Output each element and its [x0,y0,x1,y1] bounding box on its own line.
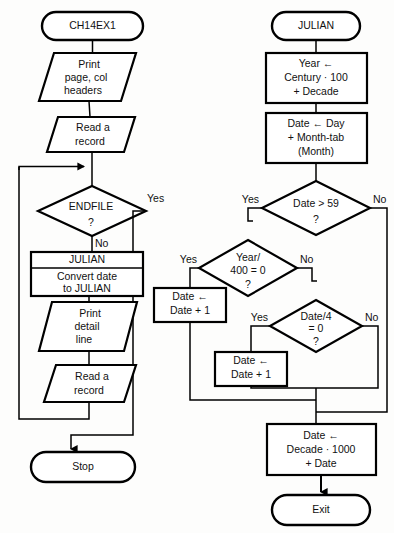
node-print-detail-line: Print detail line [39,302,137,351]
date-calc-label-line1: Date ← Day [287,117,345,129]
date-div-4-no-branch-label: No [365,311,379,323]
date-increment-a-label-line2: Date + 1 [170,304,210,316]
date-gt-59-label-line1: Date > 59 [293,197,339,209]
endfile-yes-branch-label: Yes [147,192,164,204]
print-headers-label-line2: page, col [65,71,108,83]
date-div-4-label-line3: ? [313,335,319,347]
date-calc-label-line2: + Month-tab [288,131,344,143]
node-read-record-1: Read a record [47,117,135,152]
date-div-4-label-line1: Date/4 [301,310,332,322]
node-final-calc: Date ← Decade · 1000 + Date [267,424,376,475]
node-exit: Exit [272,495,370,525]
year-400-label-line1: Year/ [236,251,260,263]
endfile-label-line1: ENDFILE [69,200,113,212]
print-detail-label-line3: line [76,333,93,345]
connector-year-400-no [297,268,317,281]
year-400-label-line2: 400 = 0 [230,264,265,276]
exit-terminator-label: Exit [312,503,330,515]
connector-date-div-4-yes [251,326,270,352]
endfile-label-line2: ? [88,216,94,228]
endfile-no-branch-label: No [95,237,109,249]
date-increment-a-label-line1: Date ← [172,290,208,302]
connector-year-400-yes [190,268,199,288]
year-400-yes-branch-label: Yes [180,253,197,265]
node-print-page-headers: Print page, col headers [39,53,136,101]
final-calc-label-line2: Decade · 1000 [287,443,356,455]
final-calc-label-line3: + Date [305,457,336,469]
read-record-1-label-line2: record [75,135,105,147]
date-div-4-label-line2: = 0 [309,322,324,334]
print-detail-label-line2: detail [74,320,99,332]
node-date-calc: Date ← Day + Month-tab (Month) [266,113,367,163]
date-gt-59-no-branch-label: No [373,193,387,205]
date-increment-b-label-line2: Date + 1 [231,368,271,380]
read-record-2-label-line2: record [74,384,104,396]
date-calc-label-line3: (Month) [298,145,334,157]
year-calc-label-line1: Year ← [299,57,334,69]
node-julian-subroutine-call: JULIAN Convert date to JULIAN [31,252,143,296]
date-increment-b-label-line1: Date ← [233,354,269,366]
date-gt-59-label-line2: ? [313,213,319,225]
print-headers-label-line3: headers [64,84,102,96]
read-record-1-label-line1: Read a [76,121,110,133]
connector-date-gt-59-yes [248,208,262,221]
julian-start-terminator-label: JULIAN [298,19,334,31]
julian-call-header-label: JULIAN [69,253,105,265]
print-headers-label-line1: Print [78,58,100,70]
year-calc-label-line3: + Decade [293,85,338,97]
node-date-increment-a: Date ← Date + 1 [154,288,226,322]
date-gt-59-yes-branch-label: Yes [242,193,259,205]
node-year-calc: Year ← Century · 100 + Decade [266,53,367,103]
node-start-ch14ex1: CH14EX1 [42,12,143,40]
node-stop: Stop [31,452,135,482]
connector-print-headers-to-read-1 [89,101,90,117]
date-div-4-yes-branch-label: Yes [251,311,268,323]
stop-terminator-label: Stop [72,460,94,472]
loopback-arrow-into-trunk [19,167,84,171]
right-chart-group: JULIAN Year ← Century · 100 + Decade Dat… [154,12,387,525]
node-decision-date-div-4: Date/4 = 0 ? [270,300,362,352]
julian-call-label-line1: Convert date [57,270,117,282]
print-detail-label-line1: Print [79,307,101,319]
start-terminator-label: CH14EX1 [69,19,116,31]
node-julian-start: JULIAN [272,12,360,40]
left-chart-group: CH14EX1 Print page, col headers Read a r… [19,12,164,482]
year-400-label-line3: ? [245,278,251,290]
flowchart-page: CH14EX1 Print page, col headers Read a r… [0,0,394,533]
node-date-increment-b: Date ← Date + 1 [215,352,287,386]
node-decision-date-gt-59: Date > 59 ? [262,181,370,235]
year-calc-label-line2: Century · 100 [284,71,348,83]
final-calc-label-line1: Date ← [303,429,339,441]
flowchart-canvas: CH14EX1 Print page, col headers Read a r… [0,0,394,533]
node-read-record-2: Read a record [44,365,136,402]
julian-call-label-line2: to JULIAN [63,282,111,294]
year-400-no-branch-label: No [300,253,314,265]
node-decision-endfile: ENDFILE ? [38,186,146,236]
read-record-2-label-line1: Read a [75,370,109,382]
